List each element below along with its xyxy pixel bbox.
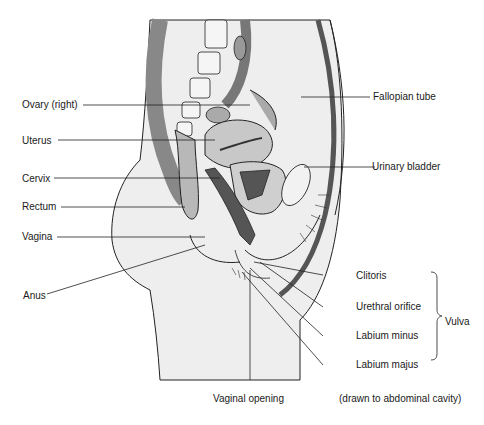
label-fallopian-tube: Fallopian tube [373,91,436,103]
label-urinary-bladder: Urinary bladder [372,161,440,173]
label-labium-majus: Labium majus [356,359,418,371]
label-clitoris: Clitoris [356,270,387,282]
label-uterus: Uterus [22,135,51,147]
label-ovary: Ovary (right) [22,99,78,111]
label-vaginal-opening: Vaginal opening [213,393,284,405]
label-cervix: Cervix [22,173,50,185]
footnote: (drawn to abdominal cavity) [339,393,461,405]
label-urethral-orifice: Urethral orifice [356,301,421,313]
label-vagina: Vagina [22,231,52,243]
label-anus: Anus [23,290,46,302]
vulva-brace [431,272,442,360]
label-labium-minus: Labium minus [356,330,418,342]
label-vulva: Vulva [445,316,470,328]
label-rectum: Rectum [22,201,56,213]
